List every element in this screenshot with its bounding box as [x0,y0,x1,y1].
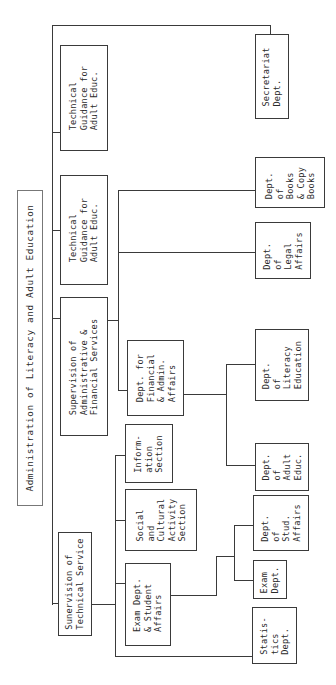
exam-dept-box: Exam Dept. [253,560,287,599]
supervision-technical-label: Sunervision of Technical Service [64,538,85,629]
supervision-admin-box: Supervision of Administrative & Financia… [60,297,108,436]
legal-connector [118,252,255,253]
secretariat-dept-label: Secretariat Dept. [261,47,282,106]
exam-student-affairs-label: Exam Dept. & Student Affairs [132,578,164,632]
dept-legal-affairs-label: Dept. of Legal Affairs [262,232,304,270]
social-cultural-section-label: Social and Cultural Activity Section [135,499,188,542]
books-legal-connector [118,190,255,191]
dept-adult-educ-box: Dept. of Adult Educ. [255,443,309,491]
information-section-label: Inform- ation Section [133,435,165,473]
connector-tg1 [52,132,60,133]
dept-student-affairs-box: Dept. of Stud. Affairs [253,495,309,551]
dept-adult-educ-label: Dept. of Adult Educ. [261,454,303,481]
secretariat-drop-line [270,25,271,34]
dept-financial-admin-box: Dept. for Financial & Admin. Affairs [127,340,184,416]
information-section-box: Inform- ation Section [125,424,173,483]
dept-legal-affairs-box: Dept. of Legal Affairs [255,222,311,279]
exam-student-children-spine [234,525,235,581]
technical-guidance-label-1: Technical Guidance for Adult Educ. [68,66,100,131]
exam-student-mid-h [216,556,234,557]
dept-books-label: Dept. of Books & Copy Books [264,166,317,198]
exam-student-out-line [171,595,216,596]
sup-tech-out-line [92,604,115,605]
sup-admin-out-line [108,320,118,321]
supervision-technical-box: Sunervision of Technical Service [58,532,92,636]
dept-books-box: Dept. of Books & Copy Books [255,157,325,208]
dept-financial-admin-label: Dept. for Financial & Admin. Affairs [134,354,176,402]
statistics-dept-label: Statis- tics Dept. [259,617,291,655]
top-connector-line [52,25,270,26]
financial-connector [118,390,127,391]
adult-educ-connector [226,465,255,466]
financial-children-spine [226,364,227,466]
exam-student-connector [115,583,125,584]
technical-guidance-box-2: Technical Guidance for Adult Educ. [60,175,108,285]
literacy-connector [226,364,255,365]
main-spine-line [52,25,53,605]
title-box: Administration of Literacy and Adult Edu… [17,190,43,506]
technical-guidance-label-2: Technical Guidance for Adult Educ. [68,198,100,263]
chart-title: Administration of Literacy and Adult Edu… [25,204,36,491]
dept-literacy-education-label: Dept. of Literacy Education [261,341,303,389]
exam-dept-label: Exam Dept. [259,566,280,593]
supervision-admin-label: Supervision of Administrative & Financia… [68,318,100,415]
secretariat-dept-box: Secretariat Dept. [255,34,289,119]
exam-student-affairs-box: Exam Dept. & Student Affairs [125,563,171,646]
social-cultural-section-box: Social and Cultural Activity Section [125,489,197,551]
technical-guidance-box-1: Technical Guidance for Adult Educ. [60,45,108,151]
connector-tg2 [52,230,60,231]
sup-admin-spine [118,190,119,390]
dept-literacy-education-box: Dept. of Literacy Education [255,329,309,401]
exam-student-mid [216,556,217,596]
statistics-connector [115,656,253,657]
sup-tech-spine [115,455,116,656]
dept-student-affairs-label: Dept. of Stud. Affairs [260,504,302,542]
stud-affairs-connector [234,525,253,526]
info-connector [115,455,125,456]
exam-dept-connector [234,580,253,581]
financial-out-line [184,394,226,395]
social-connector [115,520,125,521]
statistics-dept-box: Statis- tics Dept. [252,607,297,664]
connector-sup-admin [52,318,60,319]
